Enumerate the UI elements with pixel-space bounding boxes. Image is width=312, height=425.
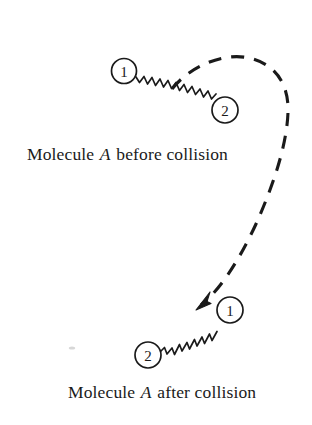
atom-node-1-after: 1 <box>217 297 243 323</box>
atom-node-2-before: 2 <box>212 97 238 123</box>
atom-node-1-before-label: 1 <box>120 64 128 80</box>
caption-after-symbol: A <box>140 382 153 402</box>
caption-before-collision: Molecule A before collision <box>27 146 228 164</box>
caption-after-suffix: after collision <box>153 382 256 402</box>
scan-speckle <box>69 346 75 349</box>
molecule-collision-diagram: 1 2 2 1 <box>0 0 312 425</box>
caption-before-prefix: Molecule <box>27 144 99 164</box>
atom-node-2-after-label: 2 <box>144 348 152 364</box>
caption-after-prefix: Molecule <box>68 382 140 402</box>
atom-node-1-before: 1 <box>112 59 137 84</box>
atom-node-1-after-label: 1 <box>226 303 234 319</box>
caption-before-symbol: A <box>99 144 112 164</box>
atom-node-2-before-label: 2 <box>221 103 229 119</box>
atom-node-2-after: 2 <box>135 342 161 368</box>
caption-after-collision: Molecule A after collision <box>68 384 256 402</box>
caption-before-suffix: before collision <box>112 144 228 164</box>
